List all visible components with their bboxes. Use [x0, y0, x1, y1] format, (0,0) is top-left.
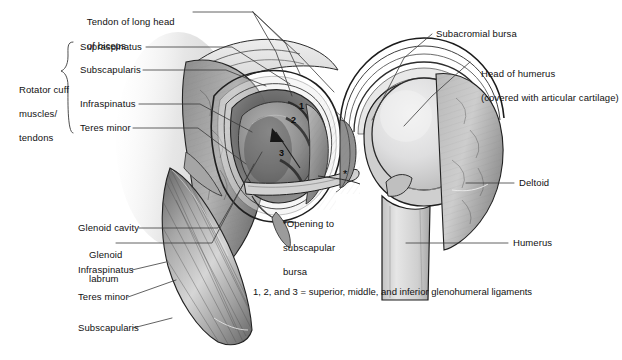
label-line: (covered with articular cartilage) — [481, 92, 619, 103]
label-teres-minor-top: Teres minor — [80, 122, 131, 134]
label-infraspinatus-top: Infraspinatus — [80, 98, 136, 110]
label-line: *Opening to — [283, 218, 334, 229]
label-line: Rotator cuff — [19, 84, 69, 95]
figure-canvas: Tendon of long head of biceps Supraspina… — [0, 0, 622, 360]
label-line: Tendon of long head — [87, 16, 175, 27]
label-deltoid: Deltoid — [519, 177, 549, 189]
asterisk-marker: * — [343, 170, 347, 178]
label-infraspinatus-bottom: Infraspinatus — [78, 264, 134, 276]
label-supraspinatus-top: Supraspinatus — [80, 41, 142, 53]
ligament-marker-1: 1 — [299, 101, 304, 111]
label-line: tendons — [19, 132, 53, 143]
label-line: Head of humerus — [481, 68, 555, 79]
label-subscapularis-top: Subscapularis — [80, 64, 141, 76]
label-glenoid-cavity: Glenoid cavity — [78, 222, 139, 234]
ligament-key-footnote: 1, 2, and 3 = superior, middle, and infe… — [253, 286, 532, 297]
label-rotator-cuff-group: Rotator cuff muscles/ tendons — [8, 72, 69, 156]
label-tendon-long-head-biceps: Tendon of long head of biceps — [76, 4, 175, 64]
label-teres-minor-bottom: Teres minor — [78, 291, 129, 303]
label-line: Glenoid — [89, 249, 122, 260]
label-subacromial-bursa: Subacromial bursa — [436, 28, 517, 40]
label-line: subscapular — [283, 242, 335, 253]
label-subscapularis-bottom: Subscapularis — [78, 322, 139, 334]
label-opening-subscapular-bursa: *Opening to subscapular bursa — [272, 206, 335, 290]
label-head-of-humerus: Head of humerus (covered with articular … — [470, 56, 619, 116]
ligament-marker-2: 2 — [291, 115, 296, 125]
label-line: muscles/ — [19, 108, 57, 119]
ligament-marker-3: 3 — [279, 148, 284, 158]
label-line: bursa — [283, 266, 307, 277]
label-humerus: Humerus — [513, 237, 552, 249]
